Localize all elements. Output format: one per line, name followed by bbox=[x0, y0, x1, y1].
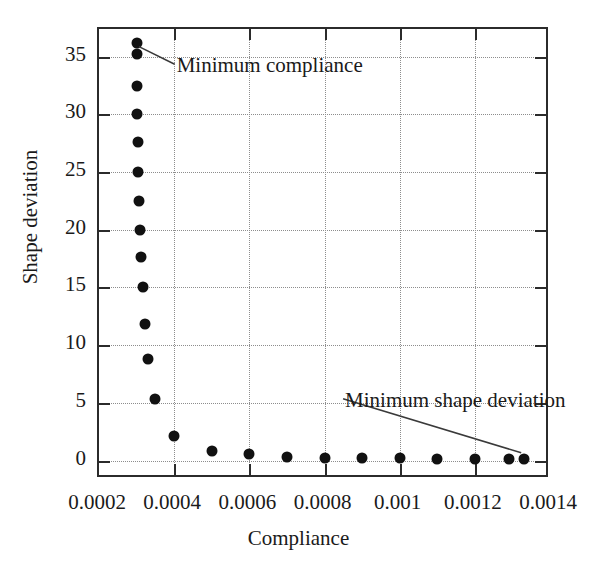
y-axis-tick-label: 0 bbox=[24, 448, 86, 469]
y-axis-tick bbox=[99, 461, 110, 463]
annotation-minimum-shape-deviation: Minimum shape deviation bbox=[345, 389, 565, 412]
data-point bbox=[206, 446, 217, 457]
x-axis-tick bbox=[400, 464, 402, 475]
y-axis-tick bbox=[535, 57, 546, 59]
y-axis-tick bbox=[99, 114, 110, 116]
x-axis-tick bbox=[249, 29, 251, 40]
gridline-vertical bbox=[174, 29, 175, 475]
x-axis-tick bbox=[400, 29, 402, 40]
y-axis-tick bbox=[535, 287, 546, 289]
data-point bbox=[503, 454, 514, 465]
data-point bbox=[132, 137, 143, 148]
y-axis-tick bbox=[99, 287, 110, 289]
data-point bbox=[169, 431, 180, 442]
gridline-horizontal bbox=[99, 287, 546, 288]
y-axis-tick bbox=[99, 230, 110, 232]
y-axis-tick-label: 30 bbox=[24, 101, 86, 122]
y-axis-tick bbox=[99, 57, 110, 59]
data-point bbox=[319, 452, 330, 463]
gridline-horizontal bbox=[99, 230, 546, 231]
x-axis-tick bbox=[174, 29, 176, 40]
y-axis-tick bbox=[99, 172, 110, 174]
data-point bbox=[143, 354, 154, 365]
gridline-horizontal bbox=[99, 172, 546, 173]
data-point bbox=[132, 109, 143, 120]
y-axis-tick bbox=[99, 345, 110, 347]
x-axis-tick bbox=[325, 464, 327, 475]
y-axis-tick bbox=[535, 345, 546, 347]
data-point bbox=[139, 319, 150, 330]
y-axis-tick-label: 20 bbox=[24, 217, 86, 238]
annotation-minimum-compliance: Minimum compliance bbox=[177, 54, 363, 77]
y-axis-tick bbox=[99, 403, 110, 405]
data-point bbox=[432, 453, 443, 464]
gridline-vertical bbox=[325, 29, 326, 475]
y-axis-tick-label: 35 bbox=[24, 44, 86, 65]
x-axis-tick-label: 0.0014 bbox=[498, 492, 597, 513]
scatter-plot-figure: Shape deviation Compliance 0510152025303… bbox=[0, 0, 597, 573]
data-point bbox=[394, 453, 405, 464]
data-point bbox=[244, 449, 255, 460]
data-point bbox=[150, 394, 161, 405]
y-axis-tick-label: 10 bbox=[24, 332, 86, 353]
data-point bbox=[134, 224, 145, 235]
x-axis-tick bbox=[174, 464, 176, 475]
x-axis-tick bbox=[325, 29, 327, 40]
data-point bbox=[281, 451, 292, 462]
y-axis-tick-label: 5 bbox=[24, 390, 86, 411]
x-axis-tick bbox=[249, 464, 251, 475]
data-point bbox=[469, 453, 480, 464]
data-point bbox=[136, 252, 147, 263]
gridline-horizontal bbox=[99, 114, 546, 115]
x-axis-tick bbox=[475, 29, 477, 40]
y-axis-tick bbox=[535, 172, 546, 174]
gridline-horizontal bbox=[99, 345, 546, 346]
y-axis-tick bbox=[535, 461, 546, 463]
data-point bbox=[131, 80, 142, 91]
data-point bbox=[518, 454, 529, 465]
data-point bbox=[133, 167, 144, 178]
data-point bbox=[357, 453, 368, 464]
y-axis-tick-label: 25 bbox=[24, 159, 86, 180]
data-point bbox=[134, 195, 145, 206]
gridline-vertical bbox=[249, 29, 250, 475]
y-axis-tick bbox=[535, 230, 546, 232]
data-point bbox=[131, 49, 142, 60]
data-point bbox=[131, 37, 142, 48]
data-point bbox=[137, 282, 148, 293]
x-axis-title: Compliance bbox=[0, 526, 597, 550]
y-axis-tick-label: 15 bbox=[24, 274, 86, 295]
x-axis-tick bbox=[475, 464, 477, 475]
y-axis-tick bbox=[535, 114, 546, 116]
